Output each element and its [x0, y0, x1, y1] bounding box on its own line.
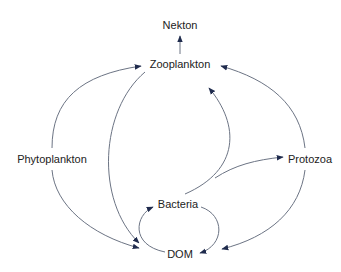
- edge-bacteria-to-dom: [200, 207, 219, 253]
- node-zooplankton: Zooplankton: [150, 59, 211, 70]
- node-protozoa: Protozoa: [288, 154, 332, 165]
- edge-dom-to-bacteria: [139, 207, 165, 252]
- edge-protozoa-to-dom: [222, 170, 305, 249]
- edge-zooplankton-to-dom: [108, 72, 145, 243]
- node-phytoplankton: Phytoplankton: [17, 154, 87, 165]
- node-bacteria: Bacteria: [158, 199, 198, 210]
- food-web-diagram: Nekton Zooplankton Phytoplankton Protozo…: [0, 0, 341, 272]
- edge-phytoplankton-to-dom: [52, 170, 139, 248]
- node-nekton: Nekton: [163, 20, 198, 31]
- edges-layer: [0, 0, 341, 272]
- edge-protozoa-to-zooplankton: [221, 66, 305, 148]
- node-dom: DOM: [167, 249, 193, 260]
- edge-bacteria-to-zooplankton: [185, 88, 230, 194]
- edge-phytoplankton-to-zooplankton: [52, 66, 141, 148]
